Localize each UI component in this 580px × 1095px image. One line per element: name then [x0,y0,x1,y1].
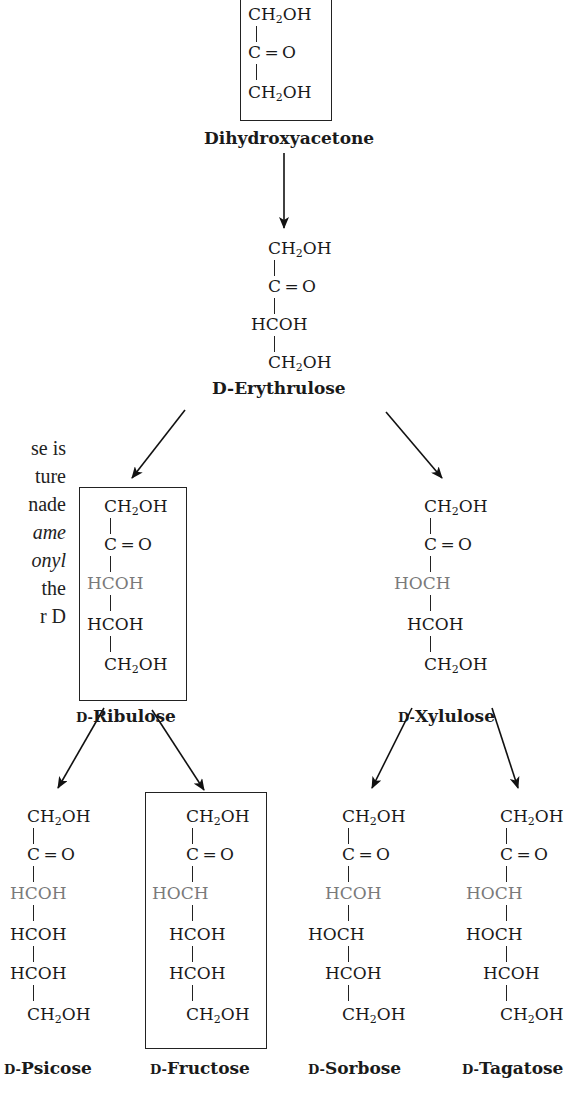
highlighted-stereocenter: HOCH [466,883,523,903]
highlighted-stereocenter: HOCH [394,573,451,593]
row-ch2oh: CH2OH [248,82,312,102]
bond [256,26,257,42]
label-dihydroxyacetone: Dihydroxyacetone [204,128,374,148]
arrow-erythrulose-to-ribulose [132,410,185,478]
highlighted-stereocenter: HOCH [152,883,209,903]
highlighted-stereocenter: HCOH [87,573,144,593]
highlighted-stereocenter: HCOH [10,883,67,903]
arrow-erythrulose-to-xylulose [386,412,442,478]
label-fructose: D-Fructose [150,1058,250,1078]
label-tagatose: D-Tagatose [462,1058,563,1078]
label-erythrulose: D-Erythrulose [212,378,346,398]
highlighted-stereocenter: HCOH [325,883,382,903]
label-xylulose: D-Xylulose [398,706,495,726]
label-sorbose: D-Sorbose [308,1058,401,1078]
bond [256,64,257,80]
arrow-xylulose-to-tagatose [492,708,518,788]
label-psicose: D-Psicose [4,1058,92,1078]
label-ribulose: D-Ribulose [76,706,176,726]
row-carbonyl: C = O [248,42,296,62]
row-ch2oh: CH2OH [248,4,312,24]
